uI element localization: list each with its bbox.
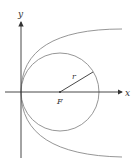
center-point (59, 91, 61, 93)
diagram-canvas: y x r F (0, 0, 138, 167)
x-axis-label: x (125, 88, 130, 98)
center-label: F (56, 97, 63, 106)
y-axis-label: y (17, 9, 24, 19)
radius-label: r (72, 72, 77, 81)
parabola-curve (21, 29, 122, 157)
radius-line (60, 72, 93, 92)
